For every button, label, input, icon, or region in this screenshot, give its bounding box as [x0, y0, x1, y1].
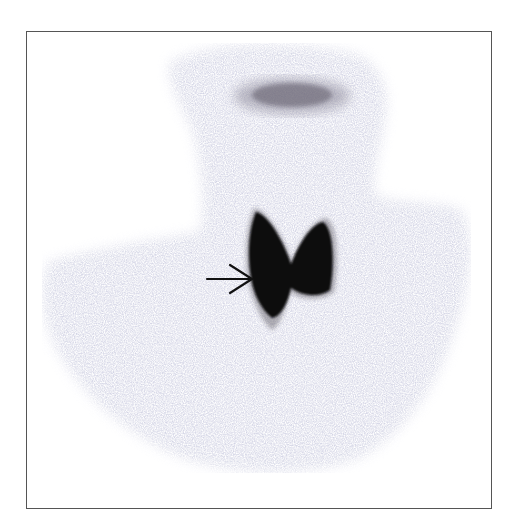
salivary-uptake: [234, 78, 350, 114]
scintigraphy-image: [0, 0, 515, 523]
